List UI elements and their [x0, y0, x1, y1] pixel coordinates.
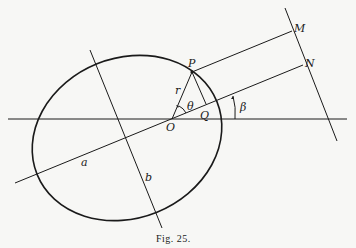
line-mn — [285, 8, 337, 141]
theta-arc — [179, 106, 186, 113]
ellipse-curve — [7, 27, 247, 248]
label-beta: β — [239, 101, 246, 114]
figure-caption: Fig. 25. — [156, 233, 191, 244]
point-p — [190, 70, 193, 73]
line-pm — [192, 31, 292, 72]
ellipse-diagram: P M N O Q r θ β a b Fig. 25. — [0, 0, 356, 248]
label-p: P — [187, 57, 196, 70]
label-q: Q — [200, 109, 209, 122]
minor-axis-line — [90, 50, 162, 228]
label-m: M — [293, 22, 306, 35]
beta-arc — [233, 96, 235, 119]
label-o: O — [166, 121, 175, 134]
label-a: a — [81, 156, 88, 169]
label-theta: θ — [187, 100, 194, 113]
label-n: N — [304, 57, 315, 70]
label-r: r — [175, 84, 181, 97]
major-axis-line — [15, 65, 303, 183]
label-b: b — [145, 171, 152, 184]
